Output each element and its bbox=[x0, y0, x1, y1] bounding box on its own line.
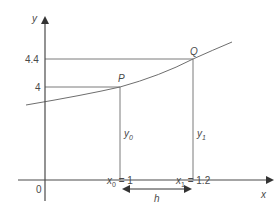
function-curve bbox=[26, 42, 232, 105]
y-axis-label: y bbox=[31, 13, 38, 24]
origin-label: 0 bbox=[36, 184, 42, 195]
point-p-label: P bbox=[118, 73, 125, 84]
y-tick-4-4: 4.4 bbox=[25, 54, 39, 65]
diagram-canvas: y x 0 4.4 4 P Q y0 y1 x0 = 1 x1 = 1.2 h bbox=[0, 0, 280, 209]
y1-label: y1 bbox=[196, 128, 206, 141]
h-label: h bbox=[154, 193, 160, 204]
x0-label: x0 = 1 bbox=[106, 175, 133, 188]
point-q-label: Q bbox=[190, 46, 198, 57]
y0-label: y0 bbox=[123, 128, 133, 141]
y-tick-4: 4 bbox=[35, 82, 41, 93]
x1-label: x1 = 1.2 bbox=[175, 175, 211, 188]
x-axis-label: x bbox=[260, 189, 267, 200]
